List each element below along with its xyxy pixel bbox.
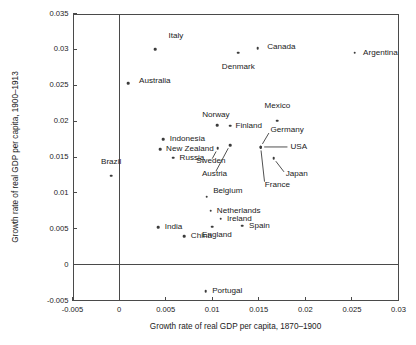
scatter-chart: -0.00500.0050.010.0150.020.0250.03 -0.00… [0, 0, 416, 345]
data-point-marker [241, 225, 244, 228]
data-point-label: Belgium [213, 187, 242, 195]
data-point-marker [211, 225, 214, 228]
data-point-marker [110, 174, 113, 177]
y-axis-title: Growth rate of real GDP per capita, 1900… [12, 71, 20, 242]
x-axis-title: Growth rate of real GDP per capita, 1870… [150, 323, 321, 331]
data-point-label: Spain [249, 222, 270, 230]
data-point-label: Portugal [212, 287, 242, 295]
data-point-label: China [191, 232, 212, 240]
data-point-marker [210, 210, 213, 213]
data-point-marker [205, 196, 208, 199]
data-point-marker [259, 146, 262, 149]
data-point-label: India [165, 223, 183, 231]
data-point-marker [157, 226, 160, 229]
data-point-marker [219, 217, 222, 220]
data-point-marker [183, 235, 186, 238]
leader-line [0, 0, 416, 345]
data-point-marker [204, 290, 207, 293]
data-point-label: France [265, 181, 290, 189]
data-point-label: Brazil [101, 158, 121, 166]
